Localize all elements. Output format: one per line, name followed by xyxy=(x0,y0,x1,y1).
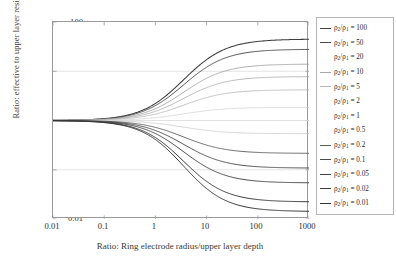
legend-line-swatch xyxy=(320,57,331,58)
legend-line-swatch xyxy=(320,72,331,73)
legend-item[interactable]: ρ2/ρ1 = 5 xyxy=(320,79,391,94)
legend-item[interactable]: ρ2/ρ1 = 1 xyxy=(320,109,391,124)
legend-item-label: ρ2/ρ1 = 0.1 xyxy=(334,156,365,164)
legend-item[interactable]: ρ2/ρ1 = 20 xyxy=(320,50,391,65)
legend-item-label: ρ2/ρ1 = 50 xyxy=(334,39,363,47)
legend-item[interactable]: ρ2/ρ1 = 0.5 xyxy=(320,123,391,138)
legend-item[interactable]: ρ2/ρ1 = 0.02 xyxy=(320,182,391,197)
legend-item[interactable]: ρ2/ρ1 = 50 xyxy=(320,36,391,51)
legend-item[interactable]: ρ2/ρ1 = 0.1 xyxy=(320,152,391,167)
chart-figure: Ratio: effective to upper layer resistiv… xyxy=(0,0,396,262)
legend-item[interactable]: ρ2/ρ1 = 0.05 xyxy=(320,167,391,182)
legend-item-label: ρ2/ρ1 = 0.2 xyxy=(334,141,365,149)
legend-item-label: ρ2/ρ1 = 2 xyxy=(334,97,360,105)
legend-item-label: ρ2/ρ1 = 5 xyxy=(334,83,360,91)
legend-item-label: ρ2/ρ1 = 100 xyxy=(334,24,367,32)
legend-line-swatch xyxy=(320,86,331,87)
y-axis-title: Ratio: effective to upper layer resistiv… xyxy=(12,0,21,139)
legend-line-swatch xyxy=(320,115,331,116)
legend-item-label: ρ2/ρ1 = 0.02 xyxy=(334,185,369,193)
legend-item-label: ρ2/ρ1 = 1 xyxy=(334,112,360,120)
x-tick-label: 100 xyxy=(233,221,279,231)
x-tick-label: 0.01 xyxy=(29,221,75,231)
x-axis-title: Ratio: Ring electrode radius/upper layer… xyxy=(52,241,308,251)
legend-item[interactable]: ρ2/ρ1 = 10 xyxy=(320,65,391,80)
chart-canvas xyxy=(53,22,309,219)
legend-line-swatch xyxy=(320,42,331,43)
legend-item-label: ρ2/ρ1 = 0.05 xyxy=(334,170,369,178)
legend-item-label: ρ2/ρ1 = 10 xyxy=(334,68,363,76)
legend-line-swatch xyxy=(320,203,331,204)
x-tick-label: 1000 xyxy=(284,221,330,231)
legend-item[interactable]: ρ2/ρ1 = 100 xyxy=(320,21,391,36)
legend-line-swatch xyxy=(320,130,331,131)
legend-line-swatch xyxy=(320,28,331,29)
legend-item[interactable]: ρ2/ρ1 = 0.01 xyxy=(320,196,391,211)
legend-item[interactable]: ρ2/ρ1 = 0.2 xyxy=(320,138,391,153)
data-curves xyxy=(53,39,309,211)
legend-line-swatch xyxy=(320,159,331,160)
legend-line-swatch xyxy=(320,101,331,102)
plot-area xyxy=(52,21,308,218)
legend-item-label: ρ2/ρ1 = 20 xyxy=(334,53,363,61)
legend-line-swatch xyxy=(320,145,331,146)
legend-item-label: ρ2/ρ1 = 0.5 xyxy=(334,126,365,134)
legend-item[interactable]: ρ2/ρ1 = 2 xyxy=(320,94,391,109)
legend-item-label: ρ2/ρ1 = 0.01 xyxy=(334,199,369,207)
chart-legend: ρ2/ρ1 = 100ρ2/ρ1 = 50ρ2/ρ1 = 20ρ2/ρ1 = 1… xyxy=(316,17,394,215)
legend-line-swatch xyxy=(320,174,331,175)
x-tick-label: 1 xyxy=(131,221,177,231)
x-tick-label: 10 xyxy=(182,221,228,231)
legend-line-swatch xyxy=(320,188,331,189)
x-tick-label: 0.1 xyxy=(80,221,126,231)
